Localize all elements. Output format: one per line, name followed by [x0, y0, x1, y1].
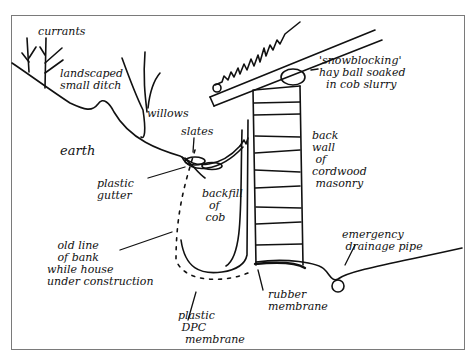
drainage-pipe-icon [332, 280, 344, 292]
label-willows: willows [147, 108, 189, 120]
label-earth: earth [60, 145, 95, 157]
label-slates: slates [181, 126, 213, 138]
label-old-line: old line of bank while house under const… [47, 240, 154, 288]
label-dpc-membrane: plastic DPC membrane [178, 310, 245, 346]
label-backfill: backfill of cob [202, 188, 243, 224]
currants-icon [22, 38, 63, 88]
label-snowblocking: 'snowblocking' hay ball soaked in cob sl… [319, 55, 406, 91]
label-landscaped-ditch: landscaped small ditch [60, 68, 123, 92]
label-currants: currants [38, 26, 85, 38]
label-rubber-membrane: rubber membrane [268, 289, 328, 313]
hay-bale-icon [281, 69, 305, 85]
label-plastic-gutter: plastic gutter [97, 178, 134, 202]
cordwood-wall-icon [253, 86, 305, 268]
gutter-icon [182, 138, 248, 170]
label-emergency-pipe: emergency drainage pipe [342, 229, 423, 253]
label-back-wall: back wall of cordwood masonry [312, 130, 367, 190]
willows-icon [122, 52, 160, 138]
